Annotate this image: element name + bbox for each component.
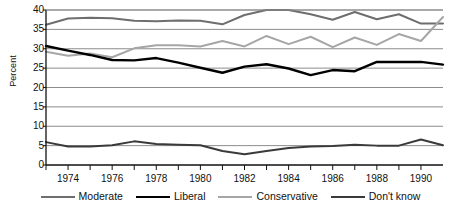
x-tick-label: 1986 [322,174,344,184]
legend-item[interactable]: Conservative [218,191,317,202]
legend-line-swatch [218,196,252,198]
line-chart: Percent 0510152025303540 197419761978198… [0,0,461,215]
legend-item[interactable]: Don't know [331,191,421,202]
data-series-lines [46,10,443,154]
x-tick-label: 1984 [277,174,299,184]
chart-legend: ModerateLiberalConservativeDon't know [0,191,461,202]
legend-line-swatch [136,196,170,198]
x-tick-label: 1990 [410,174,432,184]
legend-label: Moderate [79,191,123,202]
gridlines [46,10,443,146]
legend-line-swatch [41,196,75,198]
legend-label: Liberal [174,191,206,202]
series-line-liberal [46,46,443,75]
legend-item[interactable]: Moderate [41,191,123,202]
x-tick-label: 1982 [233,174,255,184]
x-tick-label: 1978 [145,174,167,184]
series-line-don-t-know [46,139,443,154]
series-line-conservative [46,17,443,57]
x-axis-tick-marks [46,165,421,170]
series-line-moderate [46,10,443,25]
x-tick-label: 1980 [189,174,211,184]
legend-item[interactable]: Liberal [136,191,206,202]
legend-label: Don't know [369,191,421,202]
legend-line-swatch [331,196,365,198]
x-tick-label: 1988 [366,174,388,184]
x-tick-label: 1976 [101,174,123,184]
legend-label: Conservative [256,191,317,202]
x-tick-label: 1974 [57,174,79,184]
